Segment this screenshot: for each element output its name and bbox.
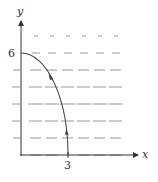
curve-arrow-upper-icon <box>49 74 54 81</box>
y-axis-label: y <box>16 5 24 18</box>
x-axis-label: x <box>142 148 149 161</box>
direction-field-diagram: y x 6 3 <box>0 0 158 182</box>
x-tick-label-3: 3 <box>64 159 71 172</box>
y-tick-label-6: 6 <box>8 47 15 60</box>
